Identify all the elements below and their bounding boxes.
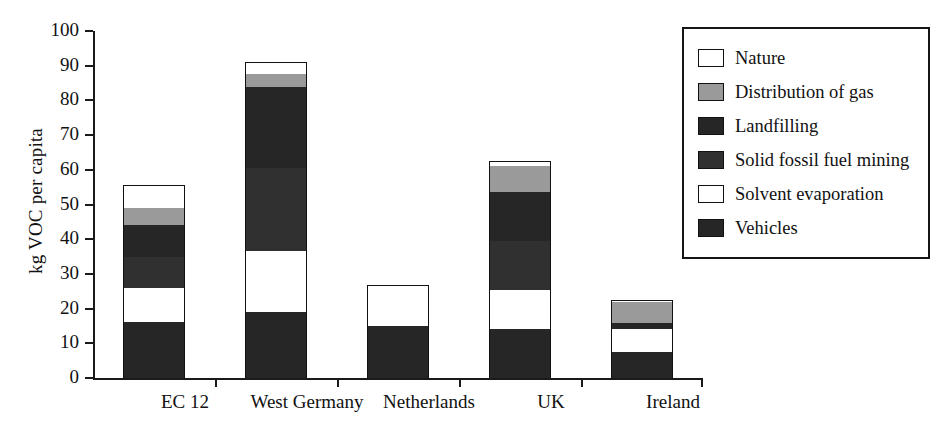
bar-segment[interactable]: [489, 241, 551, 290]
legend-label: Nature: [735, 48, 785, 69]
y-axis-tick: 40: [85, 238, 93, 240]
y-axis-tick-label: 30: [60, 262, 79, 284]
legend-item[interactable]: Landfilling: [698, 109, 928, 143]
stacked-bar[interactable]: [123, 185, 185, 378]
y-axis-tick-label: 90: [60, 54, 79, 76]
legend-label: Solid fossil fuel mining: [735, 150, 909, 171]
y-axis-tick: 10: [85, 342, 93, 344]
legend-swatch-icon: [698, 49, 724, 67]
legend-swatch-icon: [698, 117, 724, 135]
legend-label: Distribution of gas: [735, 82, 874, 103]
y-axis-tick-label: 40: [60, 227, 79, 249]
bar-segment[interactable]: [123, 257, 185, 288]
bar-segment[interactable]: [123, 185, 185, 208]
bar-segment[interactable]: [123, 225, 185, 256]
y-axis-tick: 20: [85, 308, 93, 310]
legend-label: Solvent evaporation: [735, 184, 883, 205]
bar-segment[interactable]: [245, 251, 307, 312]
bar-segment[interactable]: [489, 192, 551, 241]
stacked-bar[interactable]: [367, 285, 429, 378]
legend-item[interactable]: Nature: [698, 41, 928, 75]
legend-swatch-icon: [698, 151, 724, 169]
y-axis-tick: 70: [85, 134, 93, 136]
x-axis-category-label: Ireland: [578, 391, 768, 413]
stacked-bar[interactable]: [245, 62, 307, 378]
chart-legend: NatureDistribution of gasLandfillingSoli…: [682, 27, 930, 259]
bar-segment[interactable]: [489, 166, 551, 192]
stacked-bar[interactable]: [489, 161, 551, 378]
bar-segment[interactable]: [489, 329, 551, 378]
x-axis-line: [93, 378, 703, 380]
legend-label: Landfilling: [735, 116, 818, 137]
y-axis-tick-label: 60: [60, 158, 79, 180]
bar-segment[interactable]: [123, 208, 185, 225]
x-axis-tick: [459, 378, 461, 387]
y-axis-title: kg VOC per capita: [25, 81, 47, 321]
legend-item[interactable]: Vehicles: [698, 211, 928, 245]
bar-segment[interactable]: [611, 323, 673, 330]
x-axis-tick: [701, 378, 703, 387]
bar-segment[interactable]: [367, 326, 429, 378]
legend-item[interactable]: Solvent evaporation: [698, 177, 928, 211]
bar-segment[interactable]: [611, 302, 673, 323]
legend-swatch-icon: [698, 83, 724, 101]
y-axis-tick: 0: [85, 377, 93, 379]
bar-segment[interactable]: [611, 352, 673, 378]
bar-segment[interactable]: [611, 329, 673, 352]
plot-area: 0102030405060708090100 EC 12West Germany…: [93, 31, 703, 378]
y-axis-tick-label: 100: [51, 19, 80, 41]
y-axis-tick: 80: [85, 99, 93, 101]
bar-segment[interactable]: [245, 312, 307, 378]
x-axis-tick: [337, 378, 339, 387]
y-axis-tick-label: 80: [60, 88, 79, 110]
y-axis-tick: 50: [85, 204, 93, 206]
y-axis-tick-label: 70: [60, 123, 79, 145]
y-axis-tick: 30: [85, 273, 93, 275]
y-axis-tick: 90: [85, 65, 93, 67]
chart-figure: kg VOC per capita 0102030405060708090100…: [0, 0, 946, 423]
bar-segment[interactable]: [245, 62, 307, 74]
legend-swatch-icon: [698, 185, 724, 203]
y-axis-tick-label: 20: [60, 297, 79, 319]
legend-swatch-icon: [698, 219, 724, 237]
bar-segment[interactable]: [245, 74, 307, 86]
legend-label: Vehicles: [735, 218, 798, 239]
x-axis-tick: [215, 378, 217, 387]
bar-segment[interactable]: [245, 87, 307, 169]
y-axis-tick-label: 10: [60, 331, 79, 353]
bar-segment[interactable]: [123, 288, 185, 323]
y-axis-line: [93, 31, 95, 378]
y-axis-tick: 100: [85, 30, 93, 32]
legend-item[interactable]: Distribution of gas: [698, 75, 928, 109]
bar-segment[interactable]: [245, 168, 307, 251]
x-axis-tick: [581, 378, 583, 387]
bar-segment[interactable]: [489, 290, 551, 330]
stacked-bar[interactable]: [611, 300, 673, 378]
legend-item[interactable]: Solid fossil fuel mining: [698, 143, 928, 177]
bar-segment[interactable]: [367, 288, 429, 326]
bar-segment[interactable]: [123, 322, 185, 378]
y-axis-tick-label: 50: [60, 193, 79, 215]
y-axis-tick: 60: [85, 169, 93, 171]
y-axis-tick-label: 0: [70, 366, 80, 388]
